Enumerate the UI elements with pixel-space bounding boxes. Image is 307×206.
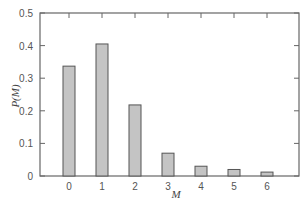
y-axis-label: P(M) (9, 84, 22, 109)
y-tick-label: 0.4 (19, 41, 33, 52)
y-tick-label: 0.2 (19, 106, 33, 117)
x-tick-label: 3 (165, 181, 171, 192)
bar-6 (261, 172, 273, 176)
x-tick-label: 2 (132, 181, 138, 192)
y-tick-label: 0.3 (19, 73, 33, 84)
plot-border (40, 13, 299, 176)
bar-chart: 00.10.20.30.40.5 0123456 P(M) M (0, 0, 307, 206)
bars (63, 44, 273, 176)
x-tick-label: 6 (264, 181, 270, 192)
x-tick-label: 1 (99, 181, 105, 192)
bar-5 (228, 169, 240, 176)
x-tick-label: 4 (198, 181, 204, 192)
bar-1 (96, 44, 108, 176)
bar-3 (162, 153, 174, 176)
y-tick-label: 0 (27, 171, 33, 182)
y-tick-label: 0.1 (19, 138, 33, 149)
bar-4 (195, 166, 207, 176)
plot-frame (40, 13, 299, 176)
x-tick-label: 0 (66, 181, 72, 192)
y-axis-ticks: 00.10.20.30.40.5 (19, 8, 299, 182)
y-tick-label: 0.5 (19, 8, 33, 19)
bar-0 (63, 66, 75, 176)
x-axis-label: M (170, 188, 181, 200)
bar-2 (129, 105, 141, 176)
x-tick-label: 5 (231, 181, 237, 192)
